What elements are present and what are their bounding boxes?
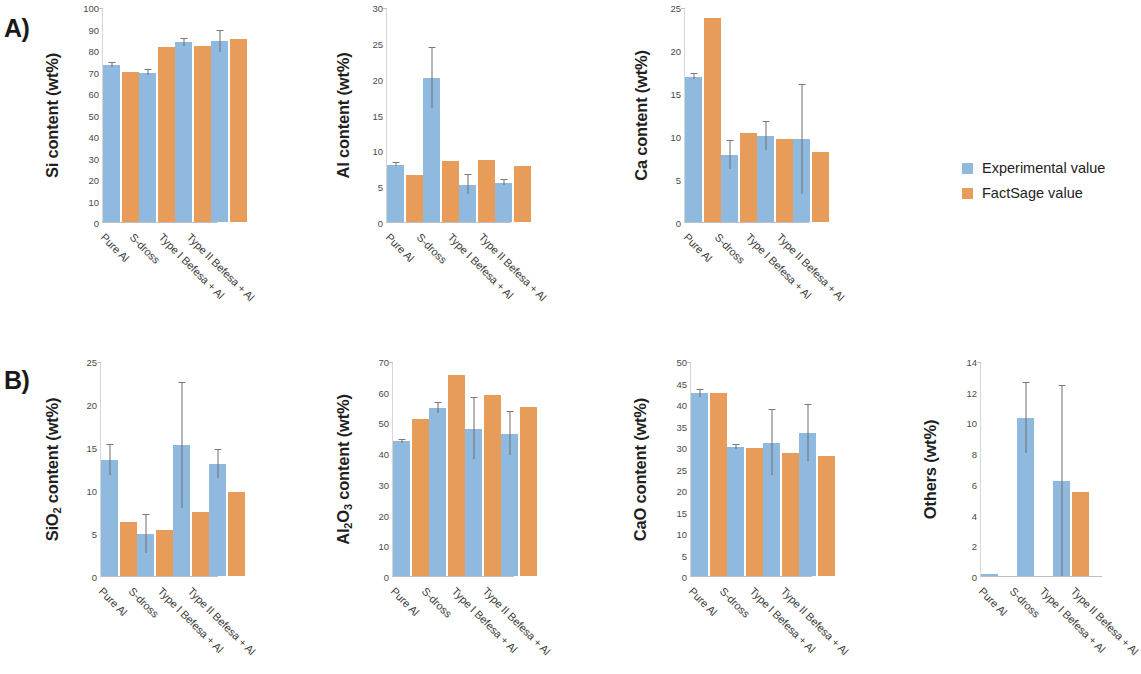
bar[interactable]: [122, 72, 139, 223]
bar-factsage[interactable]: [228, 361, 245, 576]
bar-factsage[interactable]: [412, 361, 429, 576]
bar-experimental[interactable]: [1089, 361, 1106, 576]
bar-experimental[interactable]: [757, 7, 774, 222]
bar-experimental[interactable]: [173, 361, 190, 576]
bar[interactable]: [158, 47, 175, 222]
error-bar-cap: [108, 62, 115, 63]
bar[interactable]: [175, 42, 192, 222]
bar[interactable]: [812, 152, 829, 222]
bar-experimental[interactable]: [721, 7, 738, 222]
bar-experimental[interactable]: [423, 7, 440, 222]
x-tick-label: S-dross: [126, 585, 161, 620]
bar[interactable]: [495, 183, 512, 222]
bar-factsage[interactable]: [406, 7, 423, 222]
bar-experimental[interactable]: [691, 361, 708, 576]
bar[interactable]: [818, 456, 835, 576]
bar-experimental[interactable]: [727, 361, 744, 576]
bar-factsage[interactable]: [120, 361, 137, 576]
bar-factsage[interactable]: [514, 7, 531, 222]
bar-factsage[interactable]: [776, 7, 793, 222]
bar-factsage[interactable]: [194, 7, 211, 222]
bar-factsage[interactable]: [1072, 361, 1089, 576]
bar[interactable]: [704, 18, 721, 222]
bar-factsage[interactable]: [442, 7, 459, 222]
bar-experimental[interactable]: [175, 7, 192, 222]
bar-group: [793, 8, 829, 222]
bar-experimental[interactable]: [685, 7, 702, 222]
bar-factsage[interactable]: [520, 361, 537, 576]
bar-factsage[interactable]: [746, 361, 763, 576]
bar[interactable]: [120, 522, 137, 576]
bar-experimental[interactable]: [139, 7, 156, 222]
bar-group: [727, 362, 763, 576]
bar[interactable]: [156, 530, 173, 576]
bar[interactable]: [727, 447, 744, 576]
bar-factsage[interactable]: [1036, 361, 1053, 576]
bar-factsage[interactable]: [740, 7, 757, 222]
bar-experimental[interactable]: [101, 361, 118, 576]
bar[interactable]: [230, 39, 247, 222]
y-tick-label: 15: [670, 89, 681, 100]
bar-experimental[interactable]: [209, 361, 226, 576]
bar[interactable]: [1072, 492, 1089, 576]
bar-factsage[interactable]: [484, 361, 501, 576]
bar-factsage[interactable]: [156, 361, 173, 576]
bar-factsage[interactable]: [1108, 361, 1125, 576]
bar[interactable]: [746, 448, 763, 576]
bar-experimental[interactable]: [763, 361, 780, 576]
bar[interactable]: [412, 419, 429, 576]
bar[interactable]: [514, 166, 531, 222]
bar[interactable]: [211, 41, 228, 222]
bar[interactable]: [103, 65, 120, 222]
bar-experimental[interactable]: [495, 7, 512, 222]
bar-experimental[interactable]: [103, 7, 120, 222]
bar[interactable]: [192, 512, 209, 577]
bar-factsage[interactable]: [818, 361, 835, 576]
bar[interactable]: [685, 77, 702, 222]
bar-factsage[interactable]: [448, 361, 465, 576]
bar-experimental[interactable]: [1053, 361, 1070, 576]
bar[interactable]: [710, 393, 727, 576]
bar[interactable]: [691, 393, 708, 576]
bar-experimental[interactable]: [393, 361, 410, 576]
bar-factsage[interactable]: [230, 7, 247, 222]
bar-factsage[interactable]: [478, 7, 495, 222]
bar[interactable]: [520, 407, 537, 576]
bar-factsage[interactable]: [710, 361, 727, 576]
bar-factsage[interactable]: [812, 7, 829, 222]
bar[interactable]: [393, 441, 410, 576]
bar-factsage[interactable]: [192, 361, 209, 576]
bar-experimental[interactable]: [799, 361, 816, 576]
bar-factsage[interactable]: [782, 361, 799, 576]
bar-experimental[interactable]: [793, 7, 810, 222]
bar[interactable]: [782, 453, 799, 576]
bar[interactable]: [484, 395, 501, 576]
bar-experimental[interactable]: [1017, 361, 1034, 576]
bar[interactable]: [478, 160, 495, 222]
bar-experimental[interactable]: [429, 361, 446, 576]
bar[interactable]: [209, 464, 226, 576]
bar-experimental[interactable]: [981, 361, 998, 576]
bar-factsage[interactable]: [1000, 361, 1017, 576]
bar-experimental[interactable]: [211, 7, 228, 222]
bar[interactable]: [228, 492, 245, 576]
bar-experimental[interactable]: [459, 7, 476, 222]
bar-factsage[interactable]: [158, 7, 175, 222]
bar-factsage[interactable]: [704, 7, 721, 222]
bar[interactable]: [101, 460, 118, 576]
bar[interactable]: [981, 574, 998, 576]
bar[interactable]: [387, 165, 404, 222]
bar-experimental[interactable]: [137, 361, 154, 576]
bar[interactable]: [448, 375, 465, 576]
bar-experimental[interactable]: [501, 361, 518, 576]
bar[interactable]: [429, 408, 446, 576]
bar[interactable]: [406, 175, 423, 222]
bar[interactable]: [442, 161, 459, 222]
bar[interactable]: [194, 46, 211, 222]
bar-factsage[interactable]: [122, 7, 139, 222]
bar[interactable]: [776, 139, 793, 222]
bar[interactable]: [139, 73, 156, 222]
bar-experimental[interactable]: [387, 7, 404, 222]
bar-experimental[interactable]: [465, 361, 482, 576]
bar[interactable]: [740, 133, 757, 222]
